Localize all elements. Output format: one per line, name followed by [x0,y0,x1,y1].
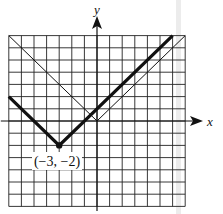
vertex-label: (−3, −2) [34,154,80,170]
vertex-point [56,142,62,148]
coordinate-graph: (−3, −2) y x [0,0,223,214]
series-y-abs-x-plus-3-minus-2 [9,36,173,146]
x-axis-label: x [206,114,213,129]
y-axis-label: y [92,2,100,17]
